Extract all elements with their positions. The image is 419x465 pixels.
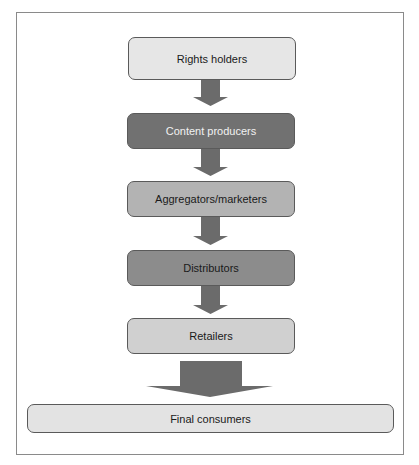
node-content-producers: Content producers <box>127 113 295 149</box>
node-aggregators-marketers: Aggregators/marketers <box>127 181 295 217</box>
arrow-down-icon <box>193 149 229 177</box>
arrow-down-icon <box>146 361 274 398</box>
node-final-consumers: Final consumers <box>27 404 394 433</box>
node-label: Rights holders <box>177 53 247 65</box>
arrow-down-icon <box>193 80 229 107</box>
node-label: Final consumers <box>170 413 251 425</box>
node-distributors: Distributors <box>127 250 295 286</box>
arrow-down-icon <box>193 286 229 315</box>
node-label: Distributors <box>183 262 239 274</box>
node-rights-holders: Rights holders <box>128 37 296 80</box>
node-label: Retailers <box>189 330 232 342</box>
arrow-down-icon <box>193 217 229 246</box>
node-retailers: Retailers <box>127 318 295 354</box>
node-label: Content producers <box>166 125 257 137</box>
node-label: Aggregators/marketers <box>155 193 267 205</box>
